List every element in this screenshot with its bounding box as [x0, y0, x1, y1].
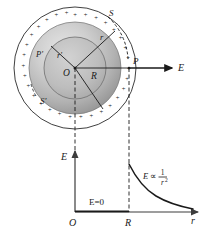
- svg-text:+: +: [122, 85, 126, 92]
- svg-text:+: +: [73, 11, 77, 18]
- label-r-prime: r': [57, 50, 62, 60]
- label-S-prime: S': [40, 96, 48, 106]
- annotation-denominator: r: [161, 178, 164, 187]
- svg-text:+: +: [126, 54, 130, 61]
- proportional-icon: ∝: [150, 171, 156, 181]
- svg-text:+: +: [108, 102, 112, 109]
- svg-text:+: +: [58, 110, 62, 117]
- svg-text:+: +: [21, 62, 25, 69]
- svg-text:+: +: [30, 31, 34, 38]
- label-E-field: E: [177, 62, 184, 73]
- label-O: O: [63, 68, 70, 78]
- svg-text:+: +: [65, 9, 69, 16]
- physics-figure: + + + + + + + + + + + + + + + + + + + + …: [0, 0, 206, 242]
- svg-text:+: +: [45, 16, 49, 23]
- svg-text:+: +: [94, 14, 98, 21]
- x-tick-label-origin: O: [69, 217, 76, 228]
- y-axis-label: E: [60, 151, 67, 162]
- svg-text:+: +: [79, 113, 83, 120]
- svg-text:+: +: [68, 113, 72, 120]
- svg-text:+: +: [25, 41, 29, 48]
- svg-text:+: +: [23, 72, 27, 79]
- x-axis-label: r: [191, 215, 195, 226]
- label-P: P: [132, 56, 139, 66]
- svg-text:+: +: [104, 19, 108, 26]
- annotation-exponent: 2: [165, 177, 168, 183]
- annotation-numerator: 1: [161, 168, 165, 177]
- x-tick-label-R: R: [124, 217, 131, 228]
- label-P-prime: P': [35, 49, 43, 59]
- svg-text:+: +: [22, 51, 26, 58]
- svg-text:+: +: [116, 94, 120, 101]
- svg-text:+: +: [27, 82, 31, 89]
- label-R: R: [90, 71, 97, 81]
- svg-text:+: +: [90, 112, 94, 119]
- figure-canvas: + + + + + + + + + + + + + + + + + + + + …: [0, 0, 206, 242]
- annotation-inverse-square: E ∝ 1 r 2: [142, 168, 168, 187]
- sphere-diagram: + + + + + + + + + + + + + + + + + + + + …: [14, 7, 184, 212]
- svg-text:+: +: [48, 106, 52, 113]
- svg-text:+: +: [37, 23, 41, 30]
- annotation-inverse-square-E: E: [142, 171, 149, 181]
- annotation-e-zero: E=0: [89, 197, 105, 207]
- svg-text:+: +: [55, 11, 59, 18]
- svg-text:+: +: [84, 11, 88, 18]
- label-S: S: [109, 8, 114, 18]
